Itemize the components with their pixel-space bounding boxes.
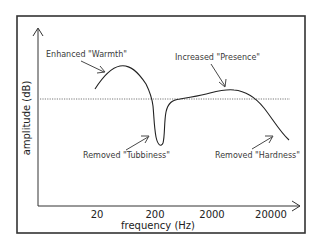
- x-tick-20000: 20000: [255, 209, 287, 220]
- label-enhanced-warmth: Enhanced "Warmth": [46, 50, 127, 59]
- eq-diagram: Enhanced "Warmth" Increased "Presence" R…: [0, 0, 317, 248]
- x-tick-20: 20: [91, 209, 104, 220]
- x-axis-label: frequency (Hz): [121, 220, 195, 231]
- diagram-frame: [17, 16, 305, 233]
- y-axis-label: amplitude (dB): [21, 81, 32, 156]
- x-tick-2000: 2000: [199, 209, 224, 220]
- x-tick-200: 200: [145, 209, 164, 220]
- label-increased-presence: Increased "Presence": [175, 53, 260, 62]
- label-removed-hardness: Removed "Hardness": [215, 151, 300, 160]
- label-removed-tubbiness: Removed "Tubbiness": [83, 151, 170, 160]
